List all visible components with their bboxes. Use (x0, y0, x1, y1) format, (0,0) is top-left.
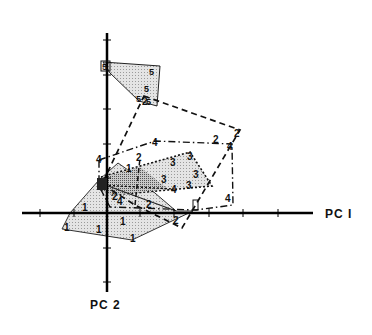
svg-text:2: 2 (146, 199, 152, 210)
svg-text:4: 4 (152, 137, 158, 148)
svg-text:1: 1 (130, 233, 136, 244)
svg-text:4: 4 (171, 184, 177, 195)
svg-text:5: 5 (136, 94, 141, 104)
svg-text:2: 2 (234, 128, 240, 139)
svg-text:3: 3 (186, 180, 192, 191)
svg-text:1: 1 (126, 163, 132, 174)
svg-text:3: 3 (161, 174, 167, 185)
svg-text:3: 3 (193, 169, 199, 180)
svg-text:4: 4 (117, 196, 123, 207)
svg-text:1: 1 (82, 202, 88, 213)
svg-text:2: 2 (142, 96, 148, 107)
svg-text:5: 5 (144, 84, 149, 94)
svg-text:2: 2 (173, 215, 179, 226)
svg-text:2: 2 (136, 152, 142, 163)
svg-text:1: 1 (64, 222, 70, 233)
svg-text:2: 2 (213, 134, 219, 145)
pc2-axis-label: PC 2 (90, 298, 121, 312)
svg-text:4: 4 (227, 141, 233, 152)
svg-text:5: 5 (102, 62, 107, 72)
svg-text:1: 1 (96, 224, 102, 235)
svg-text:1: 1 (120, 216, 126, 227)
svg-text:4: 4 (96, 154, 102, 165)
svg-text:3: 3 (187, 151, 193, 162)
svg-text:4: 4 (225, 193, 231, 204)
pc1-axis-label: PC I (325, 207, 352, 221)
svg-text:5: 5 (149, 67, 154, 77)
pca-plot: 5 5 5 5 5 2 2 2 2 2 2 2 4 4 4 4 4 4 3 3 … (0, 0, 372, 335)
svg-text:3: 3 (170, 157, 176, 168)
